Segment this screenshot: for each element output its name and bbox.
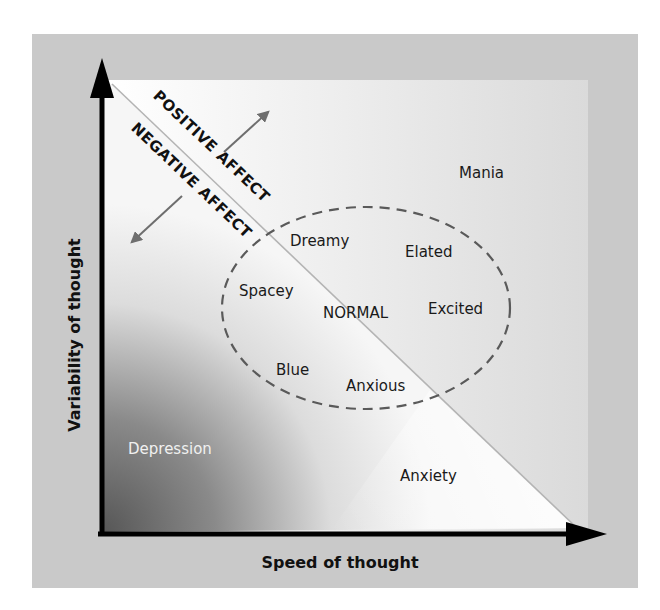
normal-label: NORMAL <box>323 304 389 322</box>
state-label-dreamy: Dreamy <box>290 232 349 250</box>
anxiety-label: Anxiety <box>400 467 457 485</box>
depression-label: Depression <box>128 440 212 458</box>
x-axis-label: Speed of thought <box>261 553 418 572</box>
affect-diagram: POSITIVE AFFECT NEGATIVE AFFECT Dreamy E… <box>0 0 660 610</box>
state-label-excited: Excited <box>428 300 483 318</box>
y-axis-label: Variability of thought <box>65 238 84 432</box>
state-label-anxious: Anxious <box>346 377 405 395</box>
mania-label: Mania <box>459 164 504 182</box>
state-label-elated: Elated <box>405 243 452 261</box>
state-label-blue: Blue <box>276 361 309 379</box>
state-label-spacey: Spacey <box>239 282 294 300</box>
